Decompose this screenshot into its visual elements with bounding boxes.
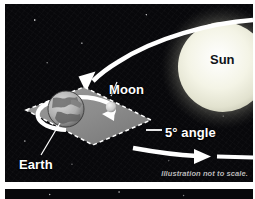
sun-label: Sun (210, 52, 235, 67)
space-scene-panel: Moon Earth 5° angle Sun Illustration not… (5, 4, 253, 182)
next-panel-starfield (5, 189, 253, 199)
illustration-figure: Moon Earth 5° angle Sun Illustration not… (0, 0, 255, 199)
scale-caption: Illustration not to scale. (161, 169, 248, 178)
next-panel-sliver (5, 189, 253, 199)
angle-label: 5° angle (165, 125, 216, 140)
earth-globe-icon (48, 91, 84, 127)
moon-icon (106, 102, 116, 112)
straight-arrow-icon (133, 148, 253, 164)
earth-label: Earth (19, 157, 53, 172)
moon-label: Moon (109, 82, 144, 97)
